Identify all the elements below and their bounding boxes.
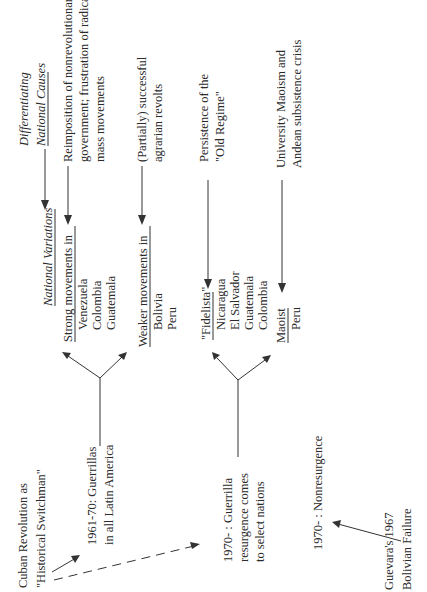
arrow-cause-to-maoist [278, 180, 286, 293]
cause-weaker-line: agrarian revolts [151, 84, 165, 162]
cause-strong-line: government; frustration of radical [77, 0, 91, 162]
variation-fidelista-country: Nicaragua [214, 278, 228, 330]
guevara-line1: Guevara's 1967 [382, 512, 396, 590]
cause-strong: Reimposition of nonrevolutionary governm… [61, 0, 107, 162]
arrow-cause-to-fidelista [204, 180, 212, 289]
fork-1961 [62, 352, 127, 446]
cause-strong-line: Reimposition of nonrevolutionary [61, 0, 75, 162]
variation-weaker-country: Bolivia [151, 293, 165, 330]
arrow-header-causes-to-variations [41, 149, 49, 210]
variation-fidelista-country: El Salvador [228, 270, 242, 330]
period-1970-nonresurgence-label: 1970- : Nonresurgence [311, 435, 325, 550]
origin-title-line1: Cuban Revolution as [16, 483, 30, 588]
variation-strong-country: Guatemala [104, 275, 118, 330]
variation-strong-label: Strong movements in [61, 234, 75, 342]
guevara-label: Guevara's 1967 Bolivian Failure [382, 508, 414, 590]
differentiating-heading-line2: National Causes [34, 63, 48, 147]
cause-weaker-line: (Partially) successful [135, 56, 149, 162]
period-1970-resurgence-label: 1970- : Guerrilla resurgence comes to se… [221, 473, 267, 562]
period-1961-label: 1961-70: Guerrillas in all Latin America [85, 444, 116, 545]
cause-fidelista-line: "Old Regime" [213, 91, 227, 162]
variation-weaker: Weaker movements in Bolivia Peru [136, 226, 179, 347]
period-1961-line2: in all Latin America [102, 444, 116, 545]
origin-label: Cuban Revolution as "Historical Switchma… [16, 469, 48, 588]
cause-fidelista-line: Persistence of the [197, 73, 211, 162]
period-1970-resurgence-line3: to select nations [253, 481, 267, 562]
cause-maoist-line: Andean subsistence crisis [290, 39, 304, 168]
fork-1970 [212, 352, 271, 457]
arrow-cause-to-weaker [138, 166, 146, 225]
variation-weaker-label: Weaker movements in [136, 235, 150, 347]
cause-maoist: University Maoism and Andean subsistence… [274, 39, 304, 168]
variation-strong-country: Colombia [90, 280, 104, 330]
historical-switchman-diagram: Cuban Revolution as "Historical Switchma… [0, 0, 427, 592]
cause-fidelista: Persistence of the "Old Regime" [197, 73, 227, 162]
variation-maoist-country: Peru [289, 306, 303, 330]
variation-strong-country: Venezuela [76, 278, 90, 330]
arrow-cause-to-strong [64, 166, 72, 225]
variation-maoist-label: Maoist [274, 308, 288, 343]
variation-fidelista-country: Guatemala [242, 275, 256, 330]
cause-weaker: (Partially) successful agrarian revolts [135, 56, 165, 162]
period-1970-resurgence-line1: 1970- : Guerrilla [221, 478, 235, 562]
variation-fidelista-label: "Fidelista" [199, 287, 213, 340]
period-1970-nonresurgence-line1: 1970- : Nonresurgence [311, 435, 325, 550]
cause-strong-line: mass movements [93, 76, 107, 162]
national-variations-heading: National Variations [41, 208, 55, 307]
differentiating-heading-line1: Differentiating [17, 72, 31, 147]
period-1970-resurgence-line2: resurgence comes [237, 473, 251, 562]
variation-strong: Strong movements in Venezuela Colombia G… [61, 226, 118, 342]
variation-fidelista-country: Colombia [256, 280, 270, 330]
origin-title-line2: "Historical Switchman" [34, 469, 48, 588]
period-1961-line1: 1961-70: Guerrillas [85, 447, 99, 545]
variation-weaker-country: Peru [165, 306, 179, 330]
arrow-origin-to-1961 [52, 555, 80, 572]
cause-maoist-line: University Maoism and [274, 49, 288, 168]
variation-maoist: Maoist Peru [274, 306, 303, 343]
header-national-variations: National Variations [41, 208, 55, 307]
header-differentiating-causes: Differentiating National Causes [17, 63, 48, 147]
guevara-line2: Bolivian Failure [400, 508, 414, 590]
